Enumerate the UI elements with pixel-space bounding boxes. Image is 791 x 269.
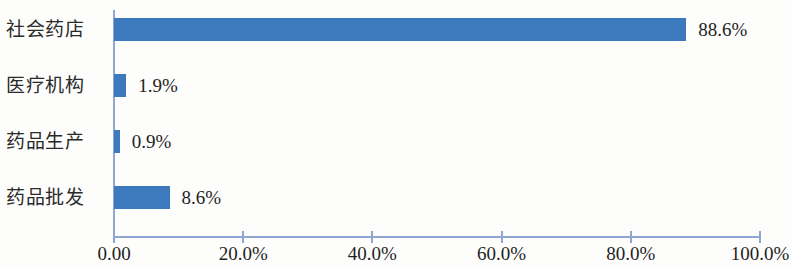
x-axis-tick-label-3: 60.0% xyxy=(477,243,526,265)
x-axis-tick-label-5: 100.0% xyxy=(731,243,790,265)
x-axis-tick-label-0: 0.00 xyxy=(97,243,130,265)
x-axis-tick-2 xyxy=(371,231,373,243)
category-label-1: 医疗机构 xyxy=(6,74,106,96)
bar-value-label-3: 8.6% xyxy=(182,186,222,209)
bar-row: 社会药店 88.6% xyxy=(0,6,791,62)
bar-0 xyxy=(114,18,686,41)
bar-value-label-2: 0.9% xyxy=(132,130,172,153)
category-label-2: 药品生产 xyxy=(6,130,106,152)
bar-row: 药品批发 8.6% xyxy=(0,174,791,230)
x-axis-tick-label-2: 40.0% xyxy=(348,243,397,265)
bar-2 xyxy=(114,130,120,153)
x-axis-tick-label-4: 80.0% xyxy=(606,243,655,265)
bar-value-label-1: 1.9% xyxy=(138,74,178,97)
category-label-0: 社会药店 xyxy=(6,18,106,40)
x-axis-line xyxy=(113,236,761,238)
bar-row: 医疗机构 1.9% xyxy=(0,62,791,118)
x-axis-tick-1 xyxy=(242,231,244,243)
bar-value-label-0: 88.6% xyxy=(698,18,747,41)
bar-1 xyxy=(114,74,126,97)
x-axis-tick-4 xyxy=(630,231,632,243)
x-axis-tick-5 xyxy=(759,231,761,243)
x-axis-tick-0 xyxy=(113,231,115,243)
bar-row: 药品生产 0.9% xyxy=(0,118,791,174)
category-label-3: 药品批发 xyxy=(6,186,106,208)
x-axis-tick-label-1: 20.0% xyxy=(219,243,268,265)
bar-3 xyxy=(114,186,170,209)
bar-chart-figure: 社会药店 88.6% 医疗机构 1.9% 药品生产 0.9% 药品批发 8.6%… xyxy=(0,0,791,269)
x-axis-tick-3 xyxy=(501,231,503,243)
